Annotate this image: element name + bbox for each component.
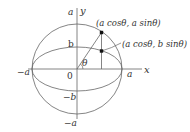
label-y-a: a — [68, 7, 73, 17]
ellipse-point-label: (a cosθ, b sinθ) — [122, 39, 187, 49]
y-axis-label: y — [79, 5, 86, 16]
label-y-neg-a: −a — [64, 118, 77, 128]
label-x-a: a — [127, 69, 132, 79]
origin-label: 0 — [67, 71, 73, 81]
circle-point-marker — [100, 31, 103, 34]
ellipse-diagram: y x 0 a b −b −a −a a θ (a cosθ, a sinθ) … — [0, 0, 190, 132]
label-y-neg-b: −b — [63, 92, 77, 102]
ellipse-point-marker — [100, 49, 103, 52]
circle-point-label: (a cosθ, a sinθ) — [96, 18, 161, 28]
label-x-neg-a: −a — [17, 67, 30, 77]
angle-label: θ — [82, 58, 88, 68]
label-y-b: b — [68, 39, 74, 49]
radius-line — [77, 33, 102, 70]
x-axis-label: x — [144, 64, 150, 75]
